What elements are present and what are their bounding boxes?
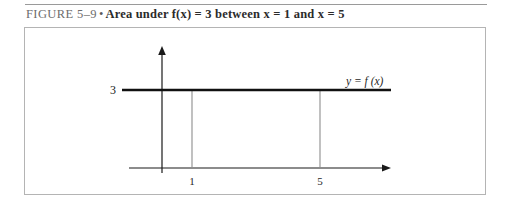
graph-plot-area: 3 1 5 y = f (x) [25, 28, 487, 196]
figure-number: FIGURE 5–9 [26, 7, 97, 21]
x-axis-arrow-icon [382, 164, 391, 171]
y-axis-arrow-icon [158, 46, 166, 55]
y-value-label-3: 3 [110, 83, 116, 97]
x-tick-label-1: 1 [189, 175, 195, 187]
x-tick-label-5: 5 [317, 175, 323, 187]
caption-top-rule [25, 4, 487, 5]
figure-frame: 3 1 5 y = f (x) [24, 27, 486, 195]
figure-caption: FIGURE 5–9•Area under f(x) = 3 between x… [26, 6, 496, 22]
figure-page: FIGURE 5–9•Area under f(x) = 3 between x… [0, 0, 511, 205]
function-curve-label: y = f (x) [345, 75, 384, 88]
figure-title: Area under f(x) = 3 between x = 1 and x … [105, 7, 344, 21]
